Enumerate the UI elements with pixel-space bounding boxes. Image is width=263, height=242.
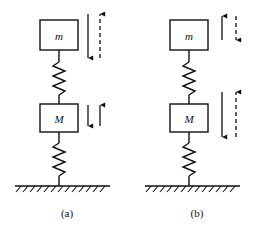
panel-b: m M (145, 16, 240, 192)
panel-b-caption: (b) (177, 207, 217, 219)
mass-m-label: m (55, 30, 63, 42)
panel-a-mass-m: m (40, 20, 78, 50)
panel-b-ground-hatching (146, 186, 235, 192)
figure-container: m M (0, 0, 263, 242)
panel-b-mass-m: m (170, 20, 208, 50)
mass-M-label: M (53, 113, 64, 125)
panel-b-upper-spring (183, 62, 195, 95)
panel-a-mass-M: M (40, 104, 78, 132)
mass-M-label: M (183, 113, 194, 125)
mass-m-label: m (185, 30, 193, 42)
spring-mass-diagram: m M (0, 0, 263, 242)
panel-b-mass-M: M (170, 104, 208, 132)
panel-a-caption: (a) (47, 207, 87, 219)
panel-b-lower-spring (183, 143, 195, 176)
panel-a-lower-spring (53, 143, 65, 176)
panel-a-upper-spring (53, 62, 65, 95)
panel-a: m M (15, 14, 110, 192)
panel-a-ground-hatching (16, 186, 105, 192)
